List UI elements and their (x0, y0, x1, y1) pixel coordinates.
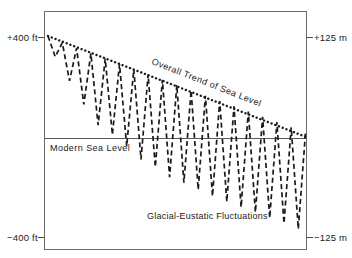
glacial-eustatic-fluctuations-label: Glacial-Eustatic Fluctuations (147, 212, 268, 221)
axis-label-bottom-left: −400 ft (7, 233, 38, 243)
axis-label-top-right: +125 m (314, 33, 347, 43)
modern-sea-level-label: Modern Sea Level (50, 144, 130, 153)
sea-level-chart-figure: +400 ft +125 m −400 ft −125 m Modern Sea… (0, 0, 352, 258)
axis-label-top-left: +400 ft (7, 33, 38, 43)
axis-label-bottom-right: −125 m (314, 233, 347, 243)
